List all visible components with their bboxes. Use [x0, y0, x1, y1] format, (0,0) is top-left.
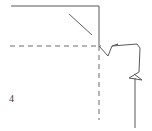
reference-numeral-4: 4	[9, 94, 14, 104]
drawing-background	[0, 0, 152, 131]
technical-drawing-canvas	[0, 0, 152, 131]
figure-container: 4	[0, 0, 152, 131]
